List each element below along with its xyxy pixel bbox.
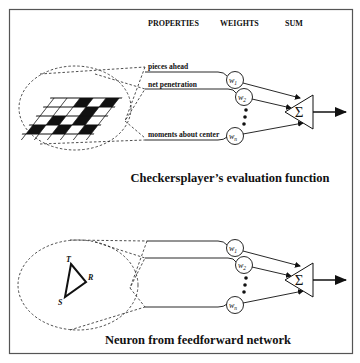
neuron-panel: T R S w1 w2 wn [18, 240, 346, 348]
property-label-n: moments about center [148, 130, 220, 139]
checkerboard-icon [17, 98, 122, 140]
weight-node-n: wn [227, 128, 244, 145]
weight-node-n: wn [227, 297, 244, 314]
arrow-wn-to-sum [243, 123, 303, 134]
input-line-n [145, 304, 227, 307]
header-weights: WEIGHTS [220, 19, 259, 28]
triangle-shape: T R S [58, 255, 94, 307]
arrow-w2-to-sum [252, 267, 291, 276]
header-properties: PROPERTIES [148, 19, 199, 28]
input-line-1 [147, 241, 227, 245]
weight-subscript: 1 [234, 248, 237, 254]
header-sum: SUM [285, 19, 303, 28]
input-zoom-ellipse [18, 240, 138, 330]
arrow-wn-to-sum [243, 291, 303, 303]
weight-node-1: w1 [227, 240, 244, 257]
weight-subscript: n [234, 305, 237, 311]
ellipsis-dots [242, 108, 248, 126]
input-line-1 [145, 72, 227, 76]
sigma-symbol: Σ [295, 104, 304, 120]
weight-node-1: w1 [227, 72, 244, 89]
weight-subscript: n [234, 136, 237, 142]
weight-subscript: 2 [243, 265, 246, 271]
weight-subscript: 1 [234, 80, 237, 86]
ellipsis-dots [242, 276, 248, 294]
weight-node-2: w2 [236, 89, 253, 106]
property-label-2: net penetration [148, 80, 198, 89]
property-label-1: pieces ahead [148, 62, 189, 71]
weight-node-2: w2 [236, 257, 253, 274]
input-line-2 [145, 258, 236, 262]
diagram: PROPERTIES WEIGHTS SUM [0, 0, 360, 363]
input-line-2 [145, 89, 236, 93]
weight-subscript: 2 [243, 97, 246, 103]
sigma-symbol: Σ [295, 272, 304, 288]
vertex-label-r: R [87, 273, 94, 282]
bottom-panel-title: Neuron from feedforward network [105, 333, 291, 347]
top-panel-title: Checkersplayer’s evaluation function [130, 171, 329, 185]
checkers-panel: pieces ahead net penetration moments abo… [17, 62, 346, 185]
vertex-label-s: S [58, 298, 63, 307]
arrow-w2-to-sum [252, 99, 291, 108]
